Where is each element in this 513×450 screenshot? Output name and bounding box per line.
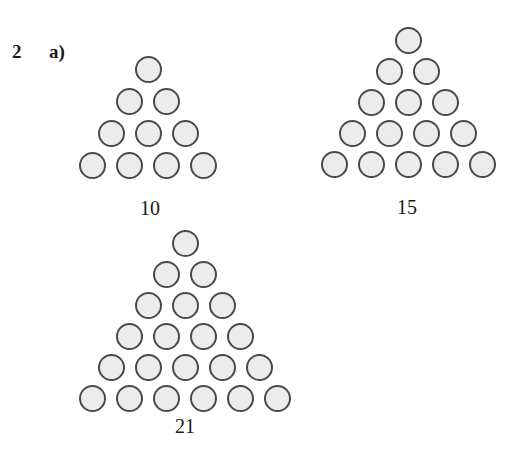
question-part-label: a) — [49, 42, 65, 61]
counter-dot — [79, 385, 106, 412]
counter-dot — [153, 385, 180, 412]
counter-dot — [153, 152, 180, 179]
counter-dot — [469, 151, 496, 178]
counter-dot — [153, 88, 180, 115]
counter-dot — [98, 120, 125, 147]
counter-dot — [172, 292, 199, 319]
triangle-count-label: 21 — [175, 416, 195, 436]
counter-dot — [450, 120, 477, 147]
counter-dot — [116, 152, 143, 179]
counter-dot — [190, 261, 217, 288]
counter-dot — [116, 323, 143, 350]
counter-dot — [209, 292, 236, 319]
counter-dot — [190, 152, 217, 179]
counter-dot — [190, 385, 217, 412]
counter-dot — [79, 152, 106, 179]
counter-dot — [153, 323, 180, 350]
question-number: 2 — [12, 42, 22, 61]
counter-dot — [395, 89, 422, 116]
counter-dot — [135, 292, 162, 319]
counter-dot — [413, 58, 440, 85]
counter-dot — [227, 385, 254, 412]
triangular-numbers-figure: 2 a) 10 15 21 — [0, 0, 513, 450]
triangle-count-label: 10 — [140, 198, 160, 218]
counter-dot — [432, 151, 459, 178]
counter-dot — [172, 120, 199, 147]
counter-dot — [135, 120, 162, 147]
counter-dot — [246, 354, 273, 381]
counter-dot — [321, 151, 348, 178]
counter-dot — [98, 354, 125, 381]
counter-dot — [153, 261, 180, 288]
counter-dot — [135, 56, 162, 83]
counter-dot — [172, 354, 199, 381]
counter-dot — [358, 89, 385, 116]
counter-dot — [376, 58, 403, 85]
counter-dot — [413, 120, 440, 147]
counter-dot — [358, 151, 385, 178]
counter-dot — [432, 89, 459, 116]
counter-dot — [116, 88, 143, 115]
counter-dot — [227, 323, 254, 350]
counter-dot — [116, 385, 143, 412]
counter-dot — [376, 120, 403, 147]
counter-dot — [395, 151, 422, 178]
counter-dot — [172, 230, 199, 257]
counter-dot — [209, 354, 236, 381]
counter-dot — [339, 120, 366, 147]
counter-dot — [264, 385, 291, 412]
counter-dot — [135, 354, 162, 381]
counter-dot — [395, 27, 422, 54]
triangle-count-label: 15 — [397, 197, 417, 217]
counter-dot — [190, 323, 217, 350]
